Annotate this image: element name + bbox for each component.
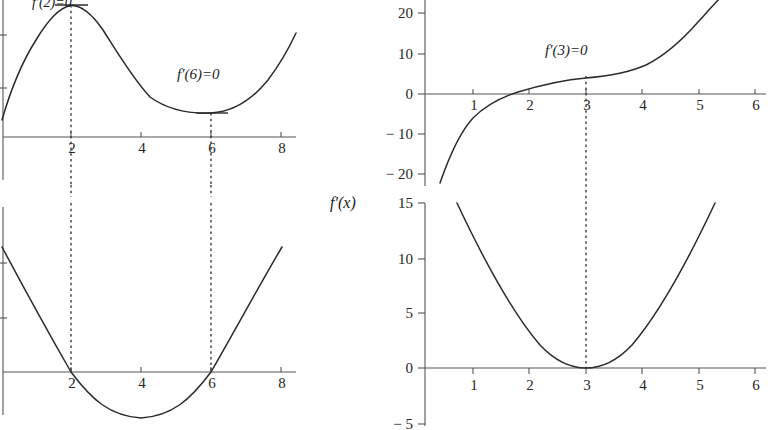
bottom-right-ytick-label-5: 5: [385, 305, 413, 322]
bottom-right-ytick-label-neg5: − 5: [370, 416, 413, 430]
bottom-right-xtick-label-2: 2: [522, 377, 538, 394]
panel-bottom-right: f′(x) 15 10 5 0 − 5 1 2 3 4 5 6: [330, 190, 768, 430]
top-left-xtick-label-6: 6: [204, 140, 220, 157]
bottom-left-plot: [0, 185, 320, 430]
bottom-right-xtick-label-3: 3: [579, 377, 595, 394]
bottom-left-curve-fprime: [2, 247, 282, 418]
bottom-left-xtick-label-4: 4: [134, 375, 150, 392]
top-left-plot: [0, 0, 320, 185]
top-right-xtick-label-6: 6: [748, 97, 764, 114]
top-right-ytick-label-10: 10: [385, 46, 413, 63]
panel-bottom-left: 2 4 6 8: [0, 185, 320, 430]
bottom-right-xtick-label-1: 1: [466, 377, 482, 394]
bottom-right-xtick-label-6: 6: [748, 377, 764, 394]
top-left-xtick-label-8: 8: [274, 140, 290, 157]
top-left-annotation-max: f′(2)=0: [32, 0, 72, 11]
top-left-curve-fx: [2, 5, 296, 120]
top-right-ytick-label-20: 20: [385, 5, 413, 22]
top-right-ytick-label-neg10: − 10: [370, 126, 413, 143]
top-left-xtick-label-2: 2: [64, 140, 80, 157]
bottom-right-ytick-label-10: 10: [385, 251, 413, 268]
bottom-left-xtick-label-2: 2: [64, 375, 80, 392]
top-right-xtick-label-1: 1: [466, 97, 482, 114]
bottom-right-xtick-label-5: 5: [692, 377, 708, 394]
top-right-xtick-label-4: 4: [635, 97, 651, 114]
top-left-annotation-min: f′(6)=0: [177, 66, 220, 83]
top-right-xtick-label-5: 5: [692, 97, 708, 114]
top-right-xtick-label-2: 2: [522, 97, 538, 114]
bottom-right-ytick-label-0: 0: [385, 360, 413, 377]
top-left-xtick-label-4: 4: [134, 140, 150, 157]
bottom-right-ytick-label-15: 15: [385, 195, 413, 212]
top-right-curve-fx: [440, 0, 722, 183]
bottom-left-xtick-label-6: 6: [204, 375, 220, 392]
bottom-right-axis-label: f′(x): [330, 194, 356, 212]
panel-top-left: 2 4 6 8 f′(2)=0 f′(6)=0: [0, 0, 320, 185]
bottom-right-curve-fprime: [457, 203, 715, 368]
top-right-xtick-label-3: 3: [579, 97, 595, 114]
bottom-left-xtick-label-8: 8: [274, 375, 290, 392]
bottom-right-xtick-label-4: 4: [635, 377, 651, 394]
top-right-ytick-label-0: 0: [385, 86, 413, 103]
panel-top-right: 20 10 0 − 10 − 20 1 2 3 4 5 6 f′(3)=0: [330, 0, 768, 190]
top-right-ytick-label-neg20: − 20: [370, 166, 413, 183]
top-right-annotation: f′(3)=0: [545, 42, 588, 59]
